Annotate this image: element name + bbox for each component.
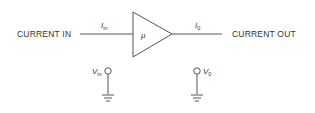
terminal-circle-icon (194, 68, 200, 74)
ground-icon (191, 95, 203, 101)
amplifier-diagram: CURRENT IN Iin μ I0 CURRENT OUT Vin V0 (0, 0, 315, 113)
amplifier-triangle-icon (133, 12, 172, 57)
input-current-label: Iin (101, 21, 108, 31)
input-voltage-terminal: Vin (92, 67, 114, 101)
gain-symbol: μ (140, 31, 146, 40)
current-out-label: CURRENT OUT (232, 29, 296, 39)
output-current-label: I0 (195, 21, 200, 31)
output-voltage-terminal: V0 (191, 67, 211, 101)
ground-icon (102, 95, 114, 101)
input-voltage-label: Vin (92, 67, 102, 77)
current-in-label: CURRENT IN (17, 29, 71, 39)
output-voltage-label: V0 (203, 67, 211, 77)
terminal-circle-icon (105, 68, 111, 74)
